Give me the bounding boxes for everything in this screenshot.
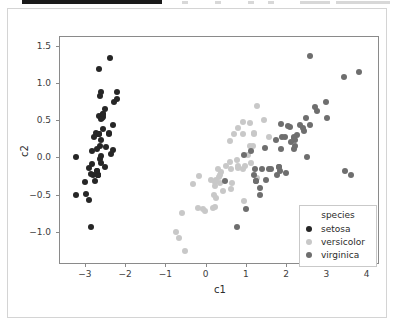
data-point-versicolor [248, 160, 254, 166]
data-point-virginica [259, 166, 265, 172]
data-point-virginica [303, 115, 309, 121]
x-tick-label: −1 [159, 269, 172, 279]
x-tick-label: 4 [364, 269, 370, 279]
data-point-setosa [96, 66, 102, 72]
y-tick-label: −1.0 [29, 227, 51, 237]
data-point-versicolor [266, 134, 272, 140]
toolbar-dark-segment [22, 0, 162, 4]
data-point-setosa [91, 134, 97, 140]
x-tick [125, 263, 126, 267]
data-point-versicolor [227, 138, 233, 144]
data-point-setosa [86, 197, 92, 203]
data-point-setosa [92, 178, 98, 184]
data-point-virginica [262, 145, 268, 151]
data-point-versicolor [190, 181, 196, 187]
chart-legend: speciessetosaversicolorvirginica [299, 205, 377, 267]
data-point-setosa [83, 191, 89, 197]
x-tick [85, 263, 86, 267]
notebook-output-container: −3−2−101234−1.0−0.50.00.51.01.5c1c2speci… [7, 8, 387, 318]
figure-canvas: −3−2−101234−1.0−0.50.00.51.01.5c1c2speci… [8, 9, 386, 317]
data-point-versicolor [220, 188, 226, 194]
x-tick-label: 2 [283, 269, 289, 279]
data-point-virginica [297, 122, 303, 128]
x-axis-label: c1 [214, 284, 226, 295]
data-point-versicolor [240, 119, 246, 125]
data-point-virginica [314, 108, 320, 114]
legend-item-setosa: setosa [306, 222, 370, 235]
data-point-setosa [114, 96, 120, 102]
data-point-virginica [348, 172, 354, 178]
data-point-virginica [222, 178, 228, 184]
data-point-virginica [251, 172, 257, 178]
y-tick-label: −0.5 [29, 190, 51, 200]
x-tick-label: 0 [203, 269, 209, 279]
data-point-setosa [108, 151, 114, 157]
y-tick [56, 120, 60, 121]
data-point-versicolor [229, 180, 235, 186]
data-point-versicolor [240, 166, 246, 172]
y-tick-label: 1.0 [37, 78, 51, 88]
data-point-setosa [88, 171, 94, 177]
data-point-versicolor [182, 248, 188, 254]
data-point-virginica [323, 99, 329, 105]
data-point-virginica [234, 224, 240, 230]
data-point-virginica [283, 170, 289, 176]
y-tick [56, 83, 60, 84]
data-point-setosa [89, 161, 95, 167]
data-point-virginica [276, 164, 282, 170]
x-tick [165, 263, 166, 267]
data-point-setosa [103, 144, 109, 150]
data-point-versicolor [179, 210, 185, 216]
scatter-plot-axes: −3−2−101234−1.0−0.50.00.51.01.5c1c2speci… [59, 36, 379, 264]
y-tick [56, 46, 60, 47]
data-point-setosa [82, 179, 88, 185]
legend-title: species [306, 210, 370, 220]
data-point-versicolor [241, 198, 247, 204]
y-tick [56, 232, 60, 233]
data-point-virginica [342, 168, 348, 174]
data-point-versicolor [251, 131, 257, 137]
data-point-versicolor [215, 166, 221, 172]
data-point-versicolor [227, 159, 233, 165]
data-point-virginica [243, 206, 249, 212]
legend-marker-icon [306, 239, 312, 245]
y-tick-label: 0.0 [37, 152, 51, 162]
data-point-setosa [98, 160, 104, 166]
data-point-versicolor [231, 131, 237, 137]
data-point-setosa [94, 168, 100, 174]
toolbar-ghost-5 [336, 1, 390, 4]
y-tick [56, 157, 60, 158]
legend-item-label: virginica [321, 250, 359, 260]
data-point-setosa [94, 146, 100, 152]
data-point-virginica [292, 143, 298, 149]
data-point-versicolor [261, 117, 267, 123]
data-point-versicolor [228, 186, 234, 192]
legend-item-label: setosa [321, 224, 350, 234]
data-point-setosa [98, 137, 104, 143]
x-tick [206, 263, 207, 267]
data-point-virginica [304, 154, 310, 160]
data-point-virginica [248, 148, 254, 154]
y-tick [56, 195, 60, 196]
data-point-setosa [106, 130, 112, 136]
data-point-virginica [307, 122, 313, 128]
data-point-versicolor [195, 205, 201, 211]
data-point-versicolor [254, 103, 260, 109]
data-point-virginica [278, 146, 284, 152]
x-tick-label: 3 [324, 269, 330, 279]
data-point-virginica [341, 74, 347, 80]
data-point-setosa [114, 89, 120, 95]
data-point-virginica [263, 177, 269, 183]
data-point-virginica [257, 185, 263, 191]
data-point-virginica [307, 53, 313, 59]
y-tick-label: 1.5 [37, 41, 51, 51]
data-point-virginica [241, 152, 247, 158]
toolbar-ghost-2 [248, 1, 254, 4]
data-point-versicolor [234, 157, 240, 163]
data-point-virginica [278, 121, 284, 127]
data-point-versicolor [211, 192, 217, 198]
data-point-versicolor [176, 235, 182, 241]
data-point-setosa [98, 89, 104, 95]
data-point-setosa [73, 154, 79, 160]
data-point-versicolor [240, 131, 246, 137]
